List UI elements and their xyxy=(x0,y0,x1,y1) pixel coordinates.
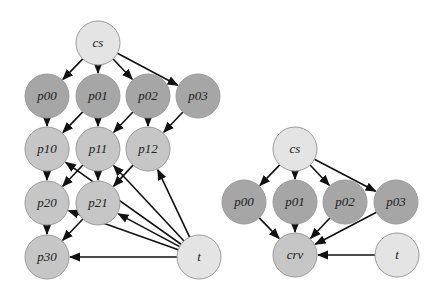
left-graph-nodes: csp00p01p02p03p10p11p12p20p21p30t xyxy=(25,21,221,279)
edge-p02-to-p11 xyxy=(114,112,133,132)
node-label: p21 xyxy=(87,195,108,210)
node-label: p01 xyxy=(284,194,305,209)
node-label: p01 xyxy=(87,88,108,103)
node-p20: p20 xyxy=(25,181,69,225)
node-label: p03 xyxy=(385,194,406,209)
node-label: p30 xyxy=(36,249,57,264)
node-p03: p03 xyxy=(374,180,418,224)
node-p30: p30 xyxy=(25,235,69,279)
node-p01: p01 xyxy=(76,74,120,118)
edge-cs-to-p00 xyxy=(260,165,280,186)
edge-p00-to-crv xyxy=(259,218,279,239)
node-label: p02 xyxy=(137,88,158,103)
edge-cs-to-p02 xyxy=(310,165,329,185)
node-p01: p01 xyxy=(273,180,317,224)
node-label: p02 xyxy=(334,194,355,209)
node-p10: p10 xyxy=(25,127,69,171)
node-p11: p11 xyxy=(76,127,120,171)
node-t: t xyxy=(375,233,419,277)
node-cs: cs xyxy=(273,127,317,171)
dependency-diagram: csp00p01p02p03p10p11p12p20p21p30tcsp00p0… xyxy=(0,0,445,300)
edge-t-to-p12 xyxy=(158,170,190,237)
node-label: p00 xyxy=(36,88,57,103)
node-p03: p03 xyxy=(176,74,220,118)
node-p00: p00 xyxy=(222,180,266,224)
edge-t-to-p21 xyxy=(118,214,179,247)
node-label: cs xyxy=(290,141,301,156)
node-label: p00 xyxy=(233,194,254,209)
edge-p21-to-p30 xyxy=(63,219,83,240)
edge-cs-to-p02 xyxy=(113,59,132,79)
node-p21: p21 xyxy=(76,181,120,225)
node-label: p12 xyxy=(137,141,158,156)
node-label: crv xyxy=(287,247,304,262)
edge-p02-to-crv xyxy=(311,218,330,238)
node-p02: p02 xyxy=(323,180,367,224)
nodes: csp00p01p02p03p10p11p12p20p21p30tcsp00p0… xyxy=(25,21,419,279)
node-p00: p00 xyxy=(25,74,69,118)
node-p12: p12 xyxy=(126,127,170,171)
edge-p03-to-p12 xyxy=(164,112,183,132)
edge-p01-to-p10 xyxy=(63,112,83,133)
node-p02: p02 xyxy=(126,74,170,118)
node-label: p03 xyxy=(187,88,208,103)
node-cs: cs xyxy=(76,21,120,65)
node-label: p10 xyxy=(36,141,57,156)
node-label: t xyxy=(197,249,201,264)
node-label: cs xyxy=(93,35,104,50)
node-label: p11 xyxy=(88,141,108,156)
edge-cs-to-p00 xyxy=(63,59,83,80)
node-t: t xyxy=(177,235,221,279)
node-label: t xyxy=(395,247,399,262)
node-label: p20 xyxy=(36,195,57,210)
node-crv: crv xyxy=(273,233,317,277)
